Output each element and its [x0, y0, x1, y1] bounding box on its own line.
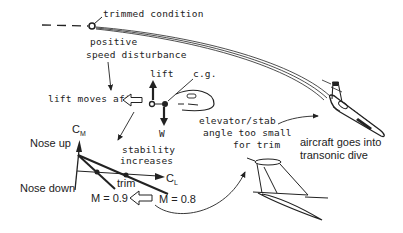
trim-label: trim: [117, 177, 135, 189]
speed-disturbance-label: speed disturbance: [86, 49, 187, 60]
dive-label-1: aircraft goes into: [300, 136, 381, 148]
approach-dashed-line: [42, 25, 88, 26]
elevator-label-2: angle too small: [203, 127, 292, 138]
disturbance-arrow: [108, 62, 111, 90]
cl-axis-label: CL: [166, 172, 178, 186]
cg-label: c.g.: [193, 68, 217, 79]
positive-label: positive: [90, 36, 137, 47]
elevator-label-1: elevator/stab: [199, 115, 276, 126]
transonic-tuck-diagram: trimmed condition positive speed disturb…: [0, 0, 403, 233]
cm-axis-label: CM: [72, 123, 86, 137]
cg-point: [162, 101, 168, 107]
mach-09-label: M = 0.9: [91, 192, 128, 204]
lift-label: lift: [150, 68, 174, 79]
trimmed-leader-line: [94, 17, 102, 24]
diving-aircraft-icon: [322, 80, 384, 137]
lift-moves-aft-label: lift moves aft: [48, 93, 131, 104]
tail-section-icon: [247, 158, 328, 220]
aircraft-nose-icon: [176, 90, 214, 110]
mach-08-label: M = 0.8: [159, 193, 196, 205]
dive-label-2: transonic dive: [300, 149, 368, 161]
elevator-label-3: for trim: [233, 139, 280, 150]
elevator-to-dive-arrow: [278, 116, 318, 124]
weight-label: W: [159, 128, 165, 139]
trim-point-m09: [95, 170, 100, 175]
lift-point: [150, 102, 155, 107]
nose-up-label: Nose up: [30, 137, 71, 149]
increases-label: increases: [120, 155, 173, 166]
stability-arrow: [118, 112, 134, 140]
nose-down-label: Nose down: [20, 182, 75, 194]
hollow-arrow-mach: [130, 191, 152, 205]
trimmed-condition-label: trimmed condition: [103, 8, 204, 19]
stability-label: stability: [122, 144, 175, 155]
